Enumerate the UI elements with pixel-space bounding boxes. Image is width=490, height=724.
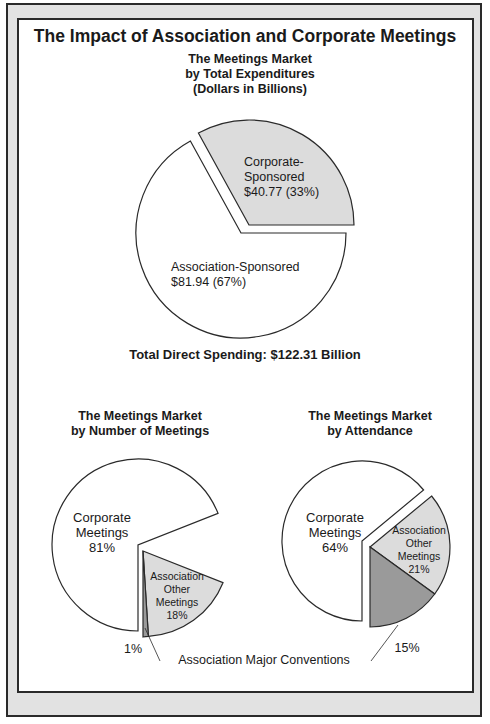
association-other-label-line: Other	[164, 583, 191, 595]
expenditures-pie	[136, 120, 354, 338]
association-other-label-line: 21%	[408, 563, 429, 575]
corporate-label-line: Corporate	[306, 510, 364, 525]
corporate-label-line: Corporate-	[244, 155, 304, 169]
corporate-label-line: 64%	[322, 540, 348, 555]
corporate-label-line: Sponsored	[244, 170, 305, 184]
corporate-label-line: Meetings	[309, 525, 362, 540]
association-other-label-line: Association	[150, 570, 204, 582]
corporate-label-line: 81%	[89, 540, 115, 555]
corporate-label-line: Meetings	[76, 525, 129, 540]
association-other-label-line: Association	[392, 524, 446, 536]
association-other-label-line: Meetings	[398, 550, 441, 562]
meetings-pie	[52, 459, 223, 637]
association-major-label: 1%	[124, 642, 142, 656]
association-label-line: $81.94 (67%)	[171, 275, 246, 289]
association-other-label-line: Meetings	[156, 596, 199, 608]
corporate-label-line: Corporate	[73, 510, 131, 525]
association-major-label: 15%	[394, 641, 419, 655]
corporate-label-line: $40.77 (33%)	[244, 185, 319, 199]
association-other-label-line: Other	[406, 537, 433, 549]
charts-canvas: Corporate- Sponsored $40.77 (33%) Associ…	[0, 0, 490, 724]
association-major-conventions-callout: Association Major Conventions	[178, 653, 350, 667]
association-label-line: Association-Sponsored	[171, 260, 300, 274]
association-other-label-line: 18%	[166, 609, 187, 621]
